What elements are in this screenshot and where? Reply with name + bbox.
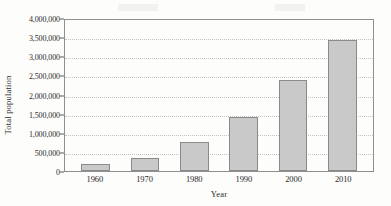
x-axis-title: Year [64, 189, 374, 199]
y-axis-title-text: Total population [3, 75, 13, 134]
bar [131, 158, 160, 171]
bar-slot [71, 20, 120, 171]
y-axis-tick-label: 500,000 [35, 148, 60, 157]
bar-slot [268, 20, 317, 171]
y-axis-tick-label: 2,000,000 [29, 91, 60, 100]
x-axis-tick-label: 1990 [219, 174, 269, 188]
bar-slot [318, 20, 367, 171]
bar [328, 40, 357, 171]
bar-slot [120, 20, 169, 171]
scan-artifact [275, 4, 305, 11]
bar-series [65, 20, 373, 171]
x-axis-tick-label: 1970 [120, 174, 170, 188]
y-axis-title: Total population [1, 55, 15, 155]
plot-area [64, 19, 374, 172]
bar [279, 80, 308, 171]
bar-slot [170, 20, 219, 171]
y-axis-tick-label: 3,500,000 [29, 34, 60, 43]
y-axis-tick-label: 2,500,000 [29, 72, 60, 81]
bar-slot [219, 20, 268, 171]
y-axis-tick-label: 1,000,000 [29, 129, 60, 138]
y-axis-tick-labels: 4,000,0003,500,0003,000,0002,500,0002,00… [14, 19, 64, 172]
bar [81, 164, 110, 171]
x-axis-tick-labels: 196019701980199020002010 [64, 174, 374, 188]
y-axis-tick-label: 3,000,000 [29, 53, 60, 62]
x-axis-tick-label: 2000 [269, 174, 319, 188]
bar [180, 142, 209, 171]
x-axis-tick-label: 2010 [318, 174, 368, 188]
y-axis-tick-label: 1,500,000 [29, 110, 60, 119]
y-axis-tick-label: 4,000,000 [29, 15, 60, 24]
x-axis-tick-label: 1980 [169, 174, 219, 188]
x-axis-tick-label: 1960 [70, 174, 120, 188]
chart-figure: Total population 4,000,0003,500,0003,000… [0, 0, 391, 206]
bar [229, 117, 258, 171]
scan-artifact [118, 4, 158, 11]
